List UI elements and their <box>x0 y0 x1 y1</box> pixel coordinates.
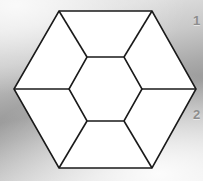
label-2: 2 <box>193 108 200 121</box>
figure-canvas: 1 2 <box>0 0 203 181</box>
hexagon-diagram <box>0 0 203 181</box>
label-1: 1 <box>193 14 200 27</box>
